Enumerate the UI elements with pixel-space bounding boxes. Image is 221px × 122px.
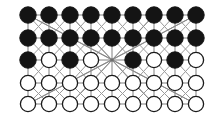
lattice-canvas xyxy=(0,0,221,122)
node-filled xyxy=(83,7,99,23)
node-open xyxy=(20,96,35,111)
node-filled xyxy=(167,7,183,23)
node-filled xyxy=(41,7,57,23)
node-open xyxy=(167,75,182,90)
node-filled xyxy=(104,30,120,46)
node-open xyxy=(41,75,56,90)
node-open xyxy=(125,75,140,90)
node-filled xyxy=(104,7,120,23)
lattice-figure xyxy=(0,0,221,122)
node-open xyxy=(146,96,161,111)
node-filled xyxy=(62,52,78,68)
node-open xyxy=(146,75,161,90)
node-open xyxy=(83,52,98,67)
node-filled xyxy=(167,52,183,68)
node-filled xyxy=(20,30,36,46)
node-open xyxy=(41,96,56,111)
node-open xyxy=(188,75,203,90)
node-open xyxy=(125,96,140,111)
node-filled xyxy=(62,30,78,46)
node-open xyxy=(167,96,182,111)
node-open xyxy=(83,96,98,111)
node-open xyxy=(83,75,98,90)
lattice-hub-node xyxy=(110,58,114,62)
node-open xyxy=(41,52,56,67)
node-open xyxy=(62,75,77,90)
node-filled xyxy=(83,30,99,46)
node-filled xyxy=(188,7,204,23)
node-filled xyxy=(146,7,162,23)
node-open xyxy=(62,96,77,111)
node-open xyxy=(20,75,35,90)
node-filled xyxy=(20,52,36,68)
node-filled xyxy=(167,30,183,46)
node-filled xyxy=(125,30,141,46)
node-open xyxy=(104,75,119,90)
node-filled xyxy=(125,7,141,23)
node-filled xyxy=(146,30,162,46)
node-open xyxy=(146,52,161,67)
node-filled xyxy=(188,30,204,46)
node-filled xyxy=(62,7,78,23)
node-open xyxy=(188,52,203,67)
node-filled xyxy=(125,52,141,68)
node-open xyxy=(104,96,119,111)
node-filled xyxy=(20,7,36,23)
node-filled xyxy=(41,30,57,46)
node-open xyxy=(188,96,203,111)
